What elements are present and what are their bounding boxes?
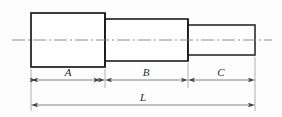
dimension-a-label: A (64, 66, 72, 78)
dimension-a: A (31, 66, 105, 82)
dimension-b-label: B (143, 66, 150, 78)
stepped-shaft-drawing: A B C L (0, 0, 282, 117)
dimension-b: B (105, 66, 188, 82)
technical-drawing-canvas: A B C L (0, 0, 282, 117)
dimension-c: C (188, 66, 255, 82)
dimension-c-label: C (217, 66, 225, 78)
dimension-l-label: L (139, 91, 146, 103)
dimension-l: L (31, 91, 255, 107)
